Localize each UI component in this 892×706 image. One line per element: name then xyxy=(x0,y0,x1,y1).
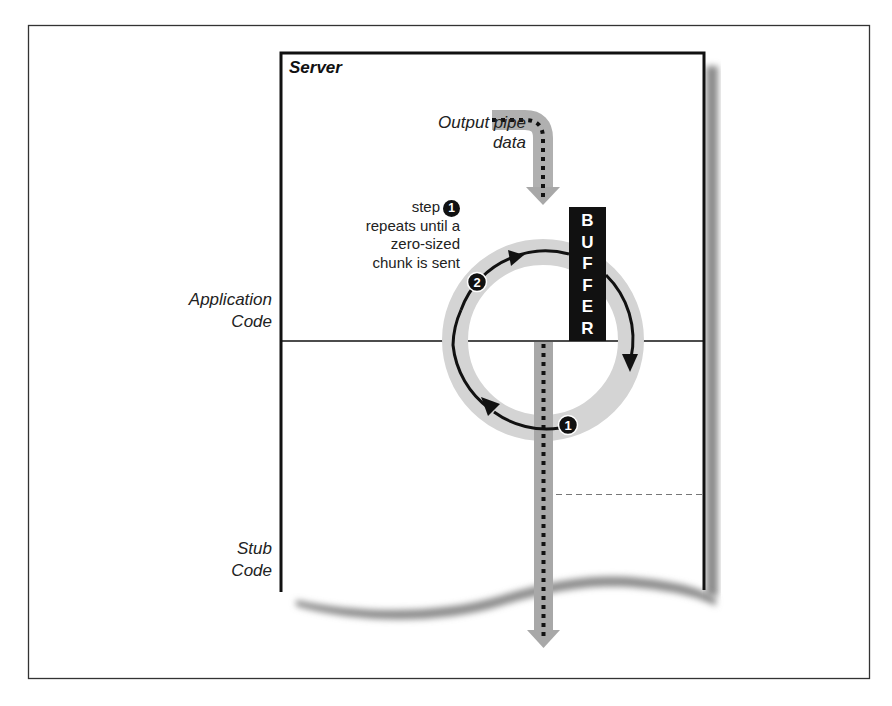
buffer-letter: E xyxy=(569,296,606,318)
application-code-label: Application Code xyxy=(189,289,272,333)
step-1-inline-badge: 1 xyxy=(443,200,460,217)
step-note-line2: repeats until a xyxy=(366,217,460,236)
stub-code-line2: Code xyxy=(231,560,272,582)
torn-edge-shadow xyxy=(296,577,716,620)
stub-code-line1: Stub xyxy=(231,538,272,560)
step-1-badge-text: 1 xyxy=(564,418,571,433)
output-pipe-label: Output pipe data xyxy=(438,113,526,153)
buffer-letter: F xyxy=(569,275,606,297)
stub-code-label: Stub Code xyxy=(231,538,272,582)
server-box-shadow xyxy=(706,66,718,596)
buffer-letter: F xyxy=(569,253,606,275)
application-code-line1: Application xyxy=(189,289,272,311)
buffered-output-diagram: 1 2 Server Output pipe data step1 repeat… xyxy=(0,0,892,706)
buffer-letter: R xyxy=(569,318,606,340)
buffer-label: B U F F E R xyxy=(569,210,606,339)
output-pipe-label-line1: Output pipe xyxy=(438,113,526,133)
step-note-line1: step1 xyxy=(366,198,460,217)
step-note-line3: zero-sized xyxy=(366,235,460,254)
output-pipe-label-line2: data xyxy=(438,133,526,153)
step-note-line4: chunk is sent xyxy=(366,254,460,273)
buffer-letter: U xyxy=(569,232,606,254)
step-repeat-note: step1 repeats until a zero-sized chunk i… xyxy=(366,198,460,272)
buffer-letter: B xyxy=(569,210,606,232)
step-2-badge-text: 2 xyxy=(473,275,480,290)
application-code-line2: Code xyxy=(189,311,272,333)
server-title: Server xyxy=(289,58,342,78)
